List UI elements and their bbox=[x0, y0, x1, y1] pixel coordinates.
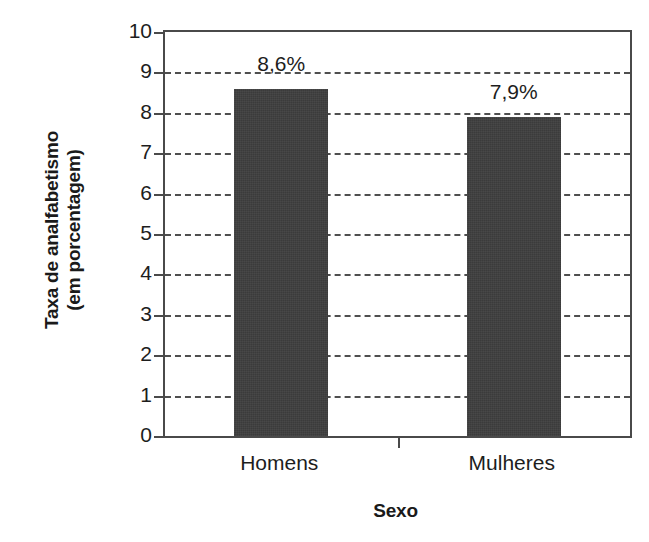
bar-chart: Taxa de analfabetismo (em porcentagem) 0… bbox=[0, 0, 649, 542]
y-axis-tick-mark bbox=[154, 274, 165, 276]
bar-value-label: 7,9% bbox=[434, 81, 594, 102]
y-axis-tick-mark bbox=[154, 355, 165, 357]
x-axis-tick-label: Mulheres bbox=[469, 452, 555, 473]
x-axis-tick-labels: HomensMulheres bbox=[163, 452, 628, 484]
y-axis-tick-label: 0 bbox=[92, 424, 152, 445]
x-axis-title: Sexo bbox=[163, 500, 628, 522]
x-axis-tick-label: Homens bbox=[240, 452, 318, 473]
y-axis-tick-label: 3 bbox=[92, 302, 152, 323]
y-axis-tick-label: 6 bbox=[92, 181, 152, 202]
y-axis-tick-mark bbox=[154, 315, 165, 317]
y-axis-tick-label: 9 bbox=[92, 60, 152, 81]
y-axis-tick-mark bbox=[154, 194, 165, 196]
y-axis-tick-label: 4 bbox=[92, 262, 152, 283]
y-axis-tick-label: 8 bbox=[92, 100, 152, 121]
plot-area: 8,6%7,9% bbox=[163, 30, 632, 438]
y-axis-tick-label: 10 bbox=[92, 20, 152, 41]
y-axis-tick-label: 2 bbox=[92, 343, 152, 364]
y-axis-tick-label: 5 bbox=[92, 222, 152, 243]
y-axis-title-line-1: Taxa de analfabetismo bbox=[41, 131, 63, 329]
x-axis-center-tick bbox=[398, 436, 400, 448]
y-axis-tick-mark bbox=[154, 72, 165, 74]
bar bbox=[234, 89, 328, 436]
y-axis-tick-mark bbox=[154, 234, 165, 236]
y-axis-tick-labels: 012345678910 bbox=[92, 30, 152, 434]
y-axis-tick-mark bbox=[154, 396, 165, 398]
y-axis-tick-mark bbox=[154, 153, 165, 155]
bar bbox=[467, 117, 561, 436]
y-axis-title-line-2: (em porcentagem) bbox=[63, 149, 85, 311]
y-axis-tick-label: 1 bbox=[92, 383, 152, 404]
y-axis-tick-label: 7 bbox=[92, 141, 152, 162]
y-axis-tick-mark bbox=[154, 436, 165, 438]
bar-value-label: 8,6% bbox=[201, 53, 361, 74]
y-axis-title: Taxa de analfabetismo (em porcentagem) bbox=[33, 50, 93, 410]
y-axis-tick-mark bbox=[154, 32, 165, 34]
y-axis-tick-mark bbox=[154, 113, 165, 115]
